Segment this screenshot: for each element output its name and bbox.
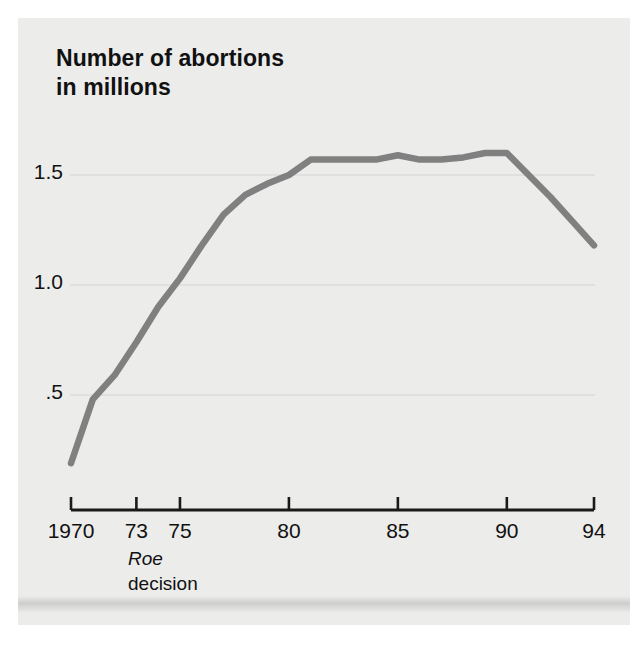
chart-figure: Number of abortions in millions 1.5 1.0 … — [0, 0, 638, 656]
gridlines-group — [70, 175, 595, 395]
chart-plot-area — [0, 0, 638, 656]
abortions-trend-line — [71, 153, 594, 463]
x-axis-group — [71, 497, 594, 510]
